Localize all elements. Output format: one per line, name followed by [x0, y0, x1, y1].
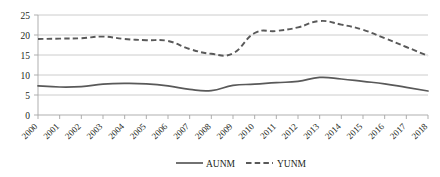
y-tick-label-10: 10 — [21, 71, 31, 81]
y-tick-label-15: 15 — [21, 51, 31, 61]
y-tick-label-5: 5 — [25, 91, 30, 101]
y-tick-label-25: 25 — [21, 11, 31, 21]
legend-label-yunm: YUNM — [277, 159, 307, 169]
line-chart: 25 20 15 10 5 0 200020012002200320042005… — [0, 0, 440, 177]
legend-label-aunm: AUNM — [206, 159, 236, 169]
chart-canvas: 25 20 15 10 5 0 200020012002200320042005… — [0, 0, 440, 177]
y-tick-label-20: 20 — [21, 31, 31, 41]
y-tick-label-0: 0 — [25, 111, 30, 121]
